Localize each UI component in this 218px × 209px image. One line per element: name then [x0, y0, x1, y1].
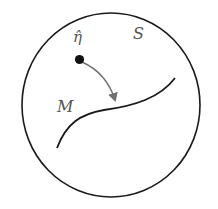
manifold-m-curve [57, 78, 175, 148]
diagram-svg [0, 0, 218, 209]
diagram-canvas: η̂ S M [0, 0, 218, 209]
space-s-label: S [133, 26, 144, 42]
space-s-circle [22, 13, 200, 197]
eta-hat-label: η̂ [73, 30, 82, 45]
projection-arrow [82, 62, 115, 100]
eta-hat-point [75, 55, 84, 64]
manifold-m-label: M [57, 99, 73, 115]
